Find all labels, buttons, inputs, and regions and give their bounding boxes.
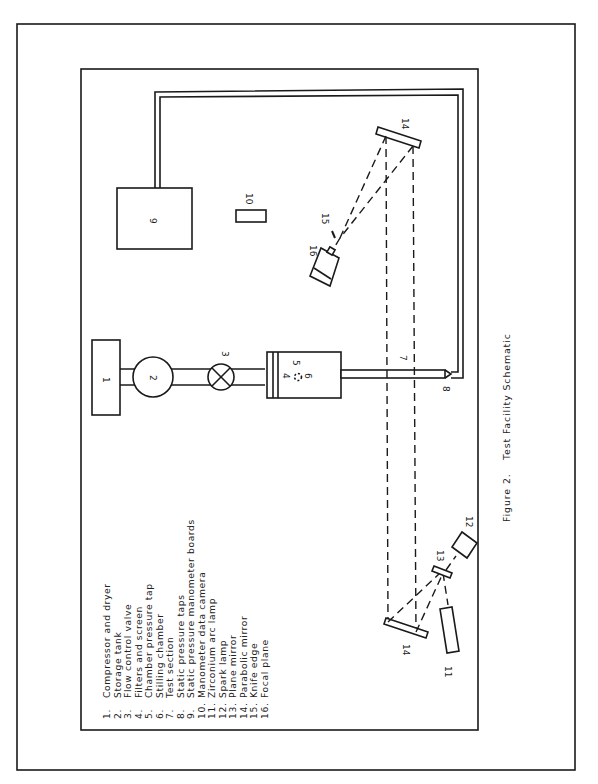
label-15: 15 <box>320 213 330 224</box>
label-13: 13 <box>435 550 445 561</box>
legend-num: 16. <box>259 703 270 719</box>
legend-num: 3. <box>122 709 133 719</box>
zirconium-arc-lamp <box>440 607 459 653</box>
legend-num: 9. <box>185 709 196 719</box>
legend-text: Zirconium arc lamp <box>206 598 217 698</box>
legend-text: Storage tank <box>112 631 123 698</box>
legend-text: Static pressure taps <box>175 594 186 698</box>
label-4: 4 <box>281 373 291 379</box>
label-14-lower: 14 <box>401 644 411 656</box>
label-5: 5 <box>291 360 301 366</box>
caption-label: Figure 2. <box>501 473 512 522</box>
legend-num: 13. <box>227 703 238 719</box>
static-pressure-taps <box>445 370 451 378</box>
label-14-upper: 14 <box>400 118 410 130</box>
legend-num: 14. <box>238 703 249 719</box>
label-7: 7 <box>398 355 408 361</box>
legend-num: 8. <box>175 709 186 719</box>
legend-text: Plane mirror <box>227 635 238 698</box>
legend-num: 7. <box>164 709 175 719</box>
label-11: 11 <box>443 666 453 677</box>
legend-num: 6. <box>154 709 165 719</box>
pressure-line-pipe <box>155 89 463 378</box>
light-beams-converging-upper <box>331 136 413 253</box>
legend-num: 10. <box>196 703 207 719</box>
figure-caption: Figure 2. Test Facility Schematic <box>501 333 512 522</box>
legend-text: Focal plane <box>259 639 270 698</box>
legend-num: 1. <box>101 709 112 719</box>
legend-num: 2. <box>112 709 123 719</box>
label-3: 3 <box>220 351 230 357</box>
caption-title: Test Facility Schematic <box>501 333 512 461</box>
legend-num: 11. <box>206 703 217 719</box>
label-16: 16 <box>308 245 318 257</box>
knife-edge <box>332 231 335 238</box>
legend-text: Compressor and dryer <box>101 583 112 698</box>
spark-lamp <box>452 532 477 558</box>
legend-text: Chamber pressure tap <box>143 583 154 698</box>
legend-text: Knife edge <box>248 643 259 698</box>
legend-num: 5. <box>143 709 154 719</box>
manometer-camera <box>236 210 266 222</box>
parabolic-mirror-upper <box>376 127 421 148</box>
legend-num: 4. <box>133 709 144 719</box>
legend-text: Filters and screen <box>133 606 144 698</box>
legend-num: 12. <box>217 703 228 719</box>
legend-text: Manometer data camera <box>196 572 207 698</box>
legend-text: Flow control valve <box>122 604 133 698</box>
flow-control-valve-icon <box>208 364 234 390</box>
parabolic-mirror-lower <box>384 618 428 638</box>
legend: 1.Compressor and dryer 2.Storage tank 3.… <box>101 519 270 719</box>
legend-text: Spark lamp <box>217 640 228 698</box>
legend-num: 15. <box>248 703 259 719</box>
label-1: 1 <box>101 377 111 383</box>
legend-text: Parabolic mirror <box>238 616 249 698</box>
legend-text: Static pressure manometer boards <box>185 519 196 698</box>
test-section <box>341 370 445 378</box>
label-8: 8 <box>441 386 451 392</box>
label-2: 2 <box>148 375 158 381</box>
schematic-diagram: 9 10 1 2 3 4 5 6 7 8 14 <box>0 0 598 784</box>
plane-mirror <box>432 566 452 578</box>
label-12: 12 <box>464 516 474 527</box>
label-6: 6 <box>303 373 313 379</box>
legend-text: Test section <box>164 637 175 699</box>
figure-page: 9 10 1 2 3 4 5 6 7 8 14 <box>0 0 598 784</box>
label-10: 10 <box>244 193 254 205</box>
label-9: 9 <box>148 218 158 224</box>
light-beams-parallel <box>386 136 416 634</box>
legend-text: Stilling chamber <box>154 613 165 698</box>
